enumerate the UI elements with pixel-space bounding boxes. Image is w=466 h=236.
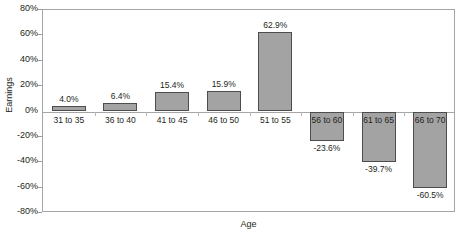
y-axis-tick-mark: [38, 34, 42, 35]
y-axis-tick-label: 20%: [2, 80, 38, 89]
y-axis-tick-label: -80%: [2, 207, 38, 216]
bar: [155, 92, 189, 112]
bar-value-label: 6.4%: [90, 91, 150, 101]
bar: [207, 91, 241, 111]
y-axis-tick-mark: [38, 85, 42, 86]
bar-value-label: -60.5%: [400, 190, 460, 200]
y-axis-tick-label: 80%: [2, 4, 38, 13]
y-axis-tick-mark: [38, 187, 42, 188]
y-axis-tick-mark: [38, 60, 42, 61]
bar: [103, 103, 137, 111]
bar-value-label: 62.9%: [245, 20, 305, 30]
y-axis-tick-label: 40%: [2, 55, 38, 64]
bar: [52, 106, 86, 111]
y-axis-tick-mark: [38, 9, 42, 10]
bar-chart: Earnings 80%60%40%20%0%-20%-40%-60%-80% …: [0, 0, 466, 236]
y-axis-tick-mark: [38, 212, 42, 213]
y-axis-tick-labels: 80%60%40%20%0%-20%-40%-60%-80%: [0, 0, 38, 236]
x-axis-category-label: 66 to 70: [400, 115, 460, 125]
bar-value-label: 15.9%: [194, 79, 254, 89]
y-axis-tick-label: 60%: [2, 29, 38, 38]
x-axis-title: Age: [42, 219, 455, 229]
bar-value-label: -39.7%: [349, 164, 409, 174]
bar-value-label: -23.6%: [297, 143, 357, 153]
y-axis-tick-mark: [38, 136, 42, 137]
y-axis-tick-label: 0%: [2, 106, 38, 115]
bar: [258, 32, 292, 112]
y-axis-tick-label: -60%: [2, 182, 38, 191]
y-axis-tick-mark: [38, 161, 42, 162]
y-axis-tick-label: -20%: [2, 131, 38, 140]
plot-area: 4.0%31 to 356.4%36 to 4015.4%41 to 4515.…: [42, 9, 455, 212]
y-axis-tick-label: -40%: [2, 156, 38, 165]
